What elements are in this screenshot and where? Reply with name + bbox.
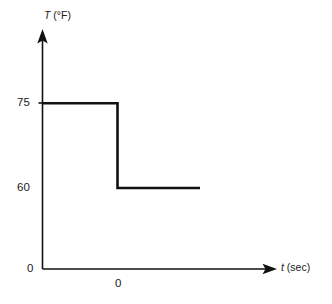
chart-figure: T (°F) t (sec) 75 60 0 0 xyxy=(0,0,332,304)
chart-svg xyxy=(0,0,332,304)
step-response-curve xyxy=(43,103,200,188)
y-tick-label-60: 60 xyxy=(17,182,30,194)
x-axis-label: t (sec) xyxy=(281,262,310,273)
y-tick-label-75: 75 xyxy=(17,97,30,109)
x-axis-unit: (sec) xyxy=(284,261,310,273)
origin-label: 0 xyxy=(27,263,33,275)
y-axis-unit: (°F) xyxy=(50,9,71,21)
x-tick-label-zero: 0 xyxy=(115,278,121,290)
y-axis-label: T (°F) xyxy=(44,10,71,21)
